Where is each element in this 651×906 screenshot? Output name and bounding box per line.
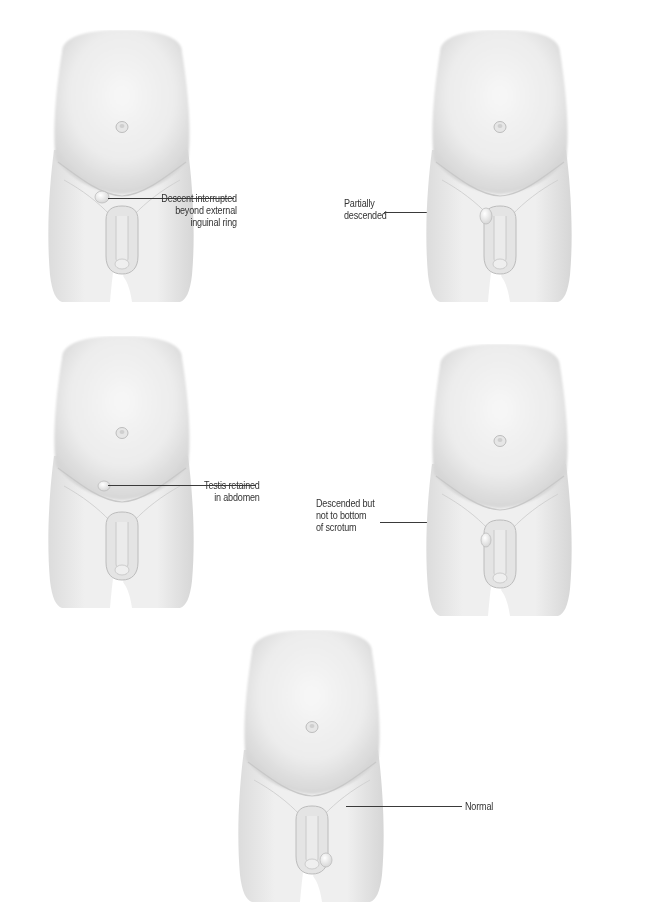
label-normal: Normal	[465, 800, 493, 812]
testis-marker	[481, 533, 491, 547]
label-not-to-bottom: Descended but not to bottom of scrotum	[316, 497, 375, 533]
testis-marker	[98, 481, 110, 491]
torso-illustration	[222, 630, 402, 906]
panel-partially-descended: Partially descended	[330, 0, 651, 310]
panel-retained-in-abdomen: Testis retained in abdomen	[0, 330, 330, 620]
panel-not-to-bottom: Descended but not to bottom of scrotum	[330, 330, 651, 620]
label-partially-descended: Partially descended	[344, 197, 387, 221]
label-descent-interrupted: Descent interrupted beyond external ingu…	[161, 192, 237, 228]
panel-descent-interrupted: Descent interrupted beyond external ingu…	[0, 0, 330, 310]
label-retained-in-abdomen: Testis retained in abdomen	[204, 479, 260, 503]
torso-illustration	[410, 30, 590, 306]
torso-illustration	[32, 336, 212, 612]
torso-illustration	[410, 344, 590, 620]
torso-illustration	[32, 30, 212, 306]
testis-marker	[320, 853, 332, 867]
leader-line	[346, 806, 462, 807]
testis-marker	[95, 191, 109, 203]
testis-marker	[480, 208, 492, 224]
panel-normal: Normal	[0, 620, 651, 899]
